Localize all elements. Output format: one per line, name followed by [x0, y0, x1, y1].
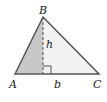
vertex-label-c: C: [93, 78, 102, 91]
altitude-label-h: h: [46, 38, 53, 51]
vertex-label-a: A: [8, 78, 17, 91]
triangle-diagram: B h A b C: [0, 0, 107, 102]
vertex-label-b: B: [38, 4, 47, 17]
base-label-b: b: [54, 78, 61, 91]
